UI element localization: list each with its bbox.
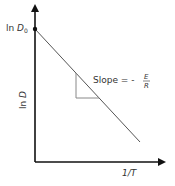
slope-label: Slope = - <box>93 75 134 85</box>
intercept-label: ln D0 <box>6 23 28 34</box>
y-axis-label: ln D <box>18 91 28 109</box>
intercept-point <box>33 27 37 31</box>
arrhenius-plot: ln D0 ln D Slope = - E R 1/T <box>0 0 175 186</box>
x-axis-label: 1/T <box>122 168 138 178</box>
slope-numerator: E <box>144 73 149 81</box>
regression-line <box>35 29 140 142</box>
slope-denominator: R <box>144 82 149 90</box>
